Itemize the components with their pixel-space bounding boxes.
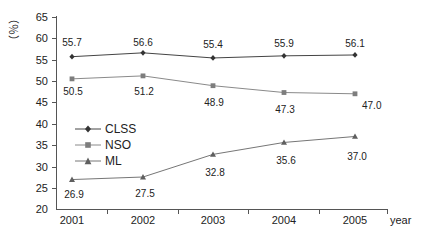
data-label-ml-2003: 32.8 bbox=[193, 168, 237, 178]
legend-marker-diamond-icon bbox=[74, 122, 102, 136]
data-label-nso-2001: 50.5 bbox=[51, 87, 95, 97]
legend-label-ml: ML bbox=[105, 155, 122, 168]
data-label-nso-2002: 51.2 bbox=[122, 87, 166, 97]
legend-item-ml[interactable]: ML bbox=[74, 153, 136, 169]
data-label-clss-2004: 55.9 bbox=[262, 39, 306, 49]
data-point-clss-2004 bbox=[281, 53, 286, 59]
data-label-nso-2004: 47.3 bbox=[263, 105, 307, 115]
data-label-ml-2001: 26.9 bbox=[52, 190, 96, 200]
data-label-ml-2005: 37.0 bbox=[335, 152, 379, 162]
data-point-clss-2003 bbox=[210, 55, 215, 61]
data-point-clss-2005 bbox=[352, 52, 357, 58]
data-label-clss-2002: 56.6 bbox=[121, 38, 165, 48]
data-label-clss-2001: 55.7 bbox=[50, 38, 94, 48]
data-label-nso-2003: 48.9 bbox=[192, 98, 236, 108]
data-point-clss-2002 bbox=[140, 50, 145, 56]
legend-label-clss: CLSS bbox=[105, 123, 136, 136]
legend-marker-square-icon bbox=[74, 138, 102, 152]
data-point-clss-2001 bbox=[69, 54, 74, 60]
data-label-nso-2005: 47.0 bbox=[362, 101, 381, 111]
legend: CLSS NSO ML bbox=[74, 121, 136, 169]
data-label-clss-2003: 55.4 bbox=[191, 40, 235, 50]
data-point-nso-2003 bbox=[211, 83, 216, 88]
legend-marker-triangle-icon bbox=[74, 154, 102, 168]
data-point-nso-2002 bbox=[141, 73, 146, 78]
data-point-nso-2005 bbox=[353, 91, 358, 96]
line-chart: （％） 65 60 55 50 45 40 35 30 25 20 2001 2… bbox=[0, 0, 422, 241]
data-label-ml-2002: 27.5 bbox=[123, 189, 167, 199]
data-point-nso-2004 bbox=[282, 90, 287, 95]
data-label-ml-2004: 35.6 bbox=[264, 156, 308, 166]
legend-item-clss[interactable]: CLSS bbox=[74, 121, 136, 137]
data-point-nso-2001 bbox=[70, 76, 75, 81]
data-label-clss-2005: 56.1 bbox=[333, 39, 377, 49]
legend-label-nso: NSO bbox=[105, 139, 131, 152]
legend-item-nso[interactable]: NSO bbox=[74, 137, 136, 153]
